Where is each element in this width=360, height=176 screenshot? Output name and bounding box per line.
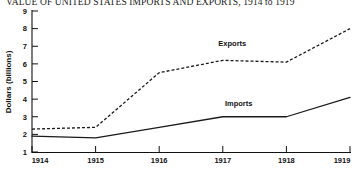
y-tick-label: 8: [23, 24, 27, 33]
y-tick-label: 9: [23, 7, 27, 16]
x-tick-label: 1919: [334, 156, 351, 165]
y-tick-label: 7: [23, 42, 27, 51]
chart-figure: VALUE OF UNITED STATES IMPORTS AND EXPOR…: [0, 0, 360, 176]
y-tick-label: 1: [23, 148, 27, 157]
y-tick-label: 2: [23, 130, 27, 139]
x-tick-label: 1914: [32, 156, 50, 165]
y-tick-label: 4: [23, 95, 28, 104]
chart-plot-area: 123456789 191419151916191719181919 Dolla…: [0, 0, 360, 176]
y-axis-ticks: 123456789: [23, 7, 38, 157]
series-label-imports: Imports: [225, 99, 253, 108]
series-label-exports: Exports: [218, 39, 246, 48]
x-axis-ticks: 191419151916191719181919: [32, 146, 351, 165]
y-tick-label: 6: [23, 60, 27, 69]
y-tick-label: 3: [23, 113, 27, 122]
series-line-exports: [32, 29, 350, 129]
x-tick-label: 1916: [151, 156, 168, 165]
x-tick-label: 1915: [87, 156, 104, 165]
y-tick-label: 5: [23, 77, 27, 86]
y-axis-title: Dollars (billions): [4, 50, 13, 113]
series-inline-labels: ExportsImports: [218, 39, 252, 108]
x-tick-label: 1917: [214, 156, 231, 165]
x-tick-label: 1918: [278, 156, 295, 165]
series-line-imports: [32, 97, 350, 138]
series-lines: [32, 29, 350, 138]
